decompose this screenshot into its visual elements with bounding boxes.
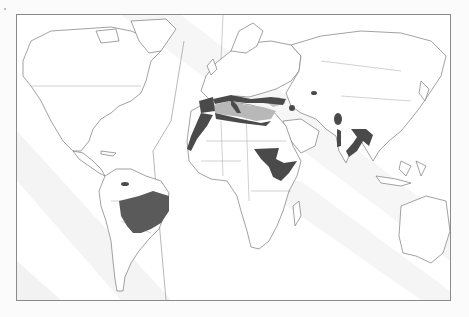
world-map-frame	[16, 14, 451, 301]
region-guiana-spot	[121, 182, 129, 186]
corner-mark	[4, 8, 6, 10]
page	[0, 0, 469, 317]
region-central-asia-spot	[311, 91, 317, 95]
region-kashmir	[334, 113, 342, 125]
region-iberia	[199, 97, 215, 113]
region-west-india	[337, 129, 341, 147]
region-caspian-spot	[289, 105, 295, 111]
world-map	[17, 15, 450, 300]
atlantic-line	[153, 41, 184, 300]
